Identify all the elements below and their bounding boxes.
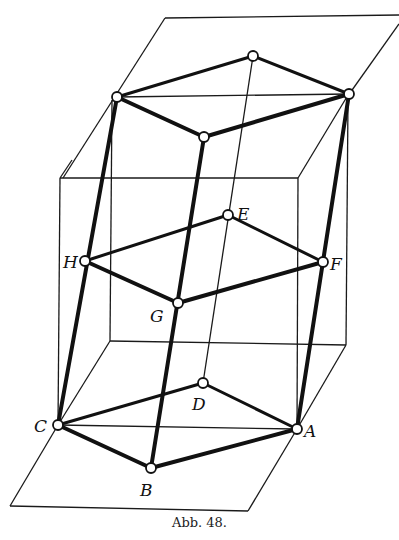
node-H <box>80 256 90 266</box>
node-top-left <box>112 92 122 102</box>
node-D <box>198 378 208 388</box>
label-G: G <box>150 306 164 326</box>
node-top-right <box>344 89 354 99</box>
node-A <box>292 424 302 434</box>
figure-diagram: E F H G D C A B <box>0 0 399 540</box>
node-F <box>318 257 328 267</box>
figure-caption: Abb. 48. <box>0 515 399 530</box>
node-top-front <box>199 132 209 142</box>
node-top-back <box>248 51 258 61</box>
label-F: F <box>329 254 343 274</box>
label-C: C <box>34 416 47 436</box>
node-C <box>53 420 63 430</box>
node-G <box>173 298 183 308</box>
label-A: A <box>302 421 316 441</box>
label-H: H <box>62 252 79 272</box>
node-B <box>146 463 156 473</box>
label-D: D <box>191 394 206 414</box>
label-B: B <box>139 480 153 500</box>
label-E: E <box>236 204 250 224</box>
node-E <box>223 210 233 220</box>
